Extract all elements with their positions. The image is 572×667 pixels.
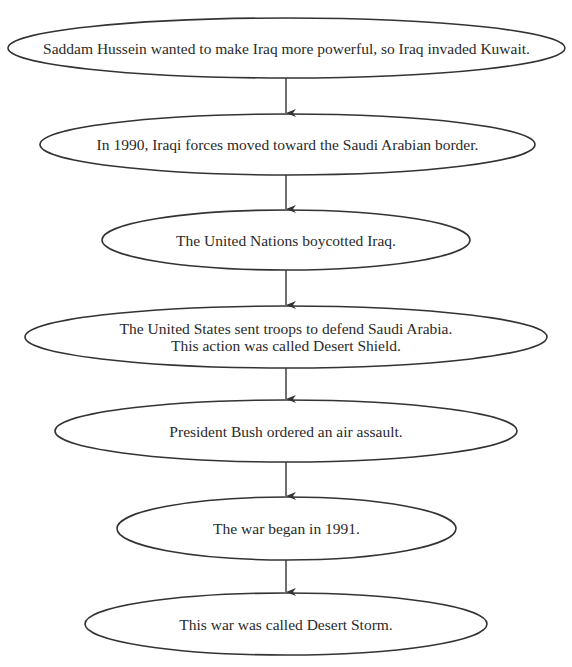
- flow-node-text: The United Nations boycotted Iraq.: [176, 232, 396, 249]
- flow-node-6: The war began in 1991.: [117, 497, 456, 560]
- flow-node-1: Saddam Hussein wanted to make Iraq more …: [8, 18, 565, 78]
- flow-node-text: In 1990, Iraqi forces moved toward the S…: [97, 136, 479, 153]
- flow-node-text: The war began in 1991.: [213, 520, 360, 537]
- flow-node-3: The United Nations boycotted Iraq.: [102, 210, 470, 270]
- flow-node-text: The United States sent troops to defend …: [120, 320, 453, 337]
- flow-node-text: This action was called Desert Shield.: [120, 337, 453, 354]
- flow-node-7: This war was called Desert Storm.: [85, 593, 487, 655]
- flow-node-text: This war was called Desert Storm.: [179, 616, 393, 633]
- flow-node-5: President Bush ordered an air assault.: [55, 400, 517, 462]
- flow-node-text: President Bush ordered an air assault.: [169, 423, 402, 440]
- flow-node-2: In 1990, Iraqi forces moved toward the S…: [40, 114, 535, 175]
- flow-node-text: Saddam Hussein wanted to make Iraq more …: [43, 40, 530, 57]
- flow-node-4: The United States sent troops to defend …: [25, 306, 547, 368]
